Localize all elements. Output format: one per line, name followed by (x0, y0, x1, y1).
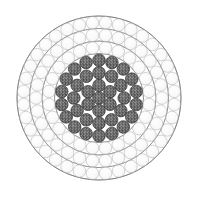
strand-shading (73, 32, 86, 45)
strand (60, 73, 73, 86)
strand (60, 111, 73, 124)
strand-shading (118, 92, 131, 105)
strand (80, 70, 93, 83)
strand (99, 154, 112, 167)
strand (86, 29, 99, 42)
strand (68, 92, 81, 105)
strand (115, 79, 128, 92)
strand (93, 130, 106, 143)
strand-shading (68, 92, 81, 105)
strand (71, 104, 84, 117)
strand (86, 42, 99, 55)
strand (86, 142, 99, 155)
strand-shading (60, 73, 73, 86)
strand-shading (43, 98, 56, 111)
strand (93, 117, 106, 130)
strand (115, 104, 128, 117)
strand-shading (104, 85, 117, 98)
strand (86, 154, 99, 167)
strand-shading (93, 104, 106, 117)
strand (82, 85, 95, 98)
strand (168, 85, 181, 98)
strand (20, 111, 33, 124)
strand (112, 152, 125, 165)
strand-shading (99, 142, 112, 155)
strand-shading (30, 92, 43, 105)
strand (80, 56, 93, 69)
strand-shading (130, 98, 143, 111)
strand-shading (93, 92, 106, 105)
strand (112, 32, 125, 45)
strand (93, 104, 106, 117)
strand-shading (93, 54, 106, 67)
strand-shading (112, 165, 125, 178)
strand-shading (82, 98, 95, 111)
strand (93, 54, 106, 67)
core-strand-group (55, 54, 142, 142)
strand-shading (125, 73, 138, 86)
strand-shading (80, 56, 93, 69)
strand-shading (55, 98, 68, 111)
strand (125, 73, 138, 86)
strand-shading (166, 72, 179, 85)
strand-shading (86, 42, 99, 55)
strand-shading (71, 104, 84, 117)
strand (93, 79, 106, 92)
strand-shading (106, 127, 119, 140)
strand-shading (31, 79, 44, 92)
strand (118, 92, 131, 105)
strand (166, 72, 179, 85)
strand (31, 79, 44, 92)
strand (106, 56, 119, 69)
strand (112, 19, 125, 32)
strand-shading (99, 167, 112, 180)
strand-shading (99, 42, 112, 55)
strand (106, 127, 119, 140)
strand (93, 67, 106, 80)
strand-shading (86, 29, 99, 42)
strand-shading (80, 114, 93, 127)
strand (104, 85, 117, 98)
strand-shading (112, 19, 125, 32)
strand-shading (86, 142, 99, 155)
figure-root (0, 0, 199, 200)
strand-shading (73, 152, 86, 165)
strand (99, 167, 112, 180)
strand-shading (99, 154, 112, 167)
strand (55, 85, 68, 98)
strand (156, 92, 169, 105)
strand (30, 92, 43, 105)
strand-shading (115, 104, 128, 117)
strand (73, 165, 86, 178)
strand-shading (115, 79, 128, 92)
strand (105, 114, 118, 127)
strand (93, 92, 106, 105)
strand (168, 98, 181, 111)
strand (43, 85, 56, 98)
strand-shading (73, 165, 86, 178)
strand-shading (43, 85, 56, 98)
strand (80, 127, 93, 140)
strand-shading (93, 79, 106, 92)
strand (125, 111, 138, 124)
strand-shading (156, 92, 169, 105)
strand (73, 152, 86, 165)
strand (73, 32, 86, 45)
strand-shading (99, 16, 112, 29)
strand-shading (93, 117, 106, 130)
strand (86, 167, 99, 180)
strand-shading (86, 167, 99, 180)
strand-shading (73, 19, 86, 32)
strand (31, 105, 44, 118)
strand-shading (86, 154, 99, 167)
strand-shading (117, 63, 130, 76)
strand-shading (154, 105, 167, 118)
strand (99, 29, 112, 42)
strand-shading (60, 111, 73, 124)
strand (17, 85, 30, 98)
strand-shading (168, 85, 181, 98)
strand (17, 98, 30, 111)
strand-shading (93, 130, 106, 143)
strand-shading (143, 85, 156, 98)
strand-shading (31, 105, 44, 118)
